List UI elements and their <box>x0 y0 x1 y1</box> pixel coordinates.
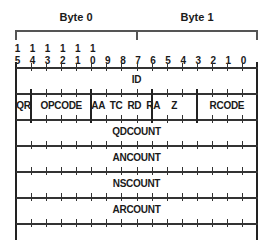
bit-tick <box>167 89 168 97</box>
field-opcode: OPCODE <box>31 100 91 112</box>
bit-tick <box>197 63 198 71</box>
bit-tick <box>227 167 228 175</box>
bit-tick <box>46 219 47 227</box>
bit-number-units: 4 <box>176 56 191 66</box>
bit-number-units: 1 <box>221 56 236 66</box>
field-arcount: ARCOUNT <box>16 204 257 216</box>
bit-tick <box>182 89 183 97</box>
bit-tick <box>46 63 47 71</box>
bit-tick <box>121 115 122 123</box>
bit-tick <box>182 193 183 201</box>
dns-header-diagram: Byte 0 Byte 1 1514131211109876543210 IDQ… <box>0 0 277 249</box>
bit-tick <box>61 89 62 97</box>
bit-tick <box>167 167 168 175</box>
bit-tick <box>121 89 122 97</box>
bit-tick <box>91 167 92 175</box>
bit-tick <box>91 219 92 227</box>
bit-tick <box>31 167 32 175</box>
bit-tick <box>137 219 138 227</box>
bit-tick <box>182 63 183 71</box>
bit-tick <box>76 89 77 97</box>
bit-tick <box>46 167 47 175</box>
bit-tick <box>227 141 228 149</box>
bit-tick <box>242 63 243 71</box>
byte-0-label: Byte 0 <box>16 11 136 23</box>
bit-tick <box>137 63 138 71</box>
bit-tick <box>212 141 213 149</box>
bit-tick <box>61 167 62 175</box>
bit-tick <box>76 219 77 227</box>
bit-tick <box>76 193 77 201</box>
bit-tick <box>242 167 243 175</box>
bit-number-units: 1 <box>70 56 85 66</box>
bit-number-tens: 1 <box>40 44 55 54</box>
bit-tick <box>31 141 32 149</box>
bit-number-units: 2 <box>55 56 70 66</box>
bit-tick <box>167 193 168 201</box>
bit-tick <box>121 63 122 71</box>
bit-tick <box>61 141 62 149</box>
bit-tick <box>227 219 228 227</box>
bit-number-units: 3 <box>40 56 55 66</box>
bit-number-units: 9 <box>100 56 115 66</box>
bit-tick <box>46 115 47 123</box>
bit-tick <box>91 141 92 149</box>
bit-tick <box>76 141 77 149</box>
bit-tick <box>152 219 153 227</box>
bit-tick <box>61 193 62 201</box>
bit-tick <box>91 193 92 201</box>
bit-tick <box>182 115 183 123</box>
bit-tick <box>31 63 32 71</box>
bit-tick <box>106 89 107 97</box>
bit-tick <box>182 219 183 227</box>
bit-tick <box>167 63 168 71</box>
bracket-center-tick <box>136 30 138 40</box>
field-nscount: NSCOUNT <box>16 178 257 190</box>
bracket-right-tick <box>256 30 258 40</box>
bit-tick <box>197 141 198 149</box>
bit-tick <box>227 193 228 201</box>
bit-number-units: 8 <box>115 56 130 66</box>
bit-tick <box>242 89 243 97</box>
bit-tick <box>106 63 107 71</box>
field-ancount: ANCOUNT <box>16 152 257 164</box>
bit-tick <box>242 219 243 227</box>
bit-tick <box>227 89 228 97</box>
bit-number-units: 3 <box>191 56 206 66</box>
bit-tick <box>242 115 243 123</box>
bit-tick <box>212 219 213 227</box>
byte-1-label: Byte 1 <box>137 11 257 23</box>
bit-tick <box>46 89 47 97</box>
bit-tick <box>152 141 153 149</box>
bit-tick <box>137 167 138 175</box>
bit-tick <box>31 219 32 227</box>
bit-tick <box>106 219 107 227</box>
bit-tick <box>227 115 228 123</box>
bit-number-units: 7 <box>131 56 146 66</box>
bit-tick <box>212 115 213 123</box>
bit-tick <box>61 219 62 227</box>
bit-tick <box>46 193 47 201</box>
bit-tick <box>137 141 138 149</box>
bit-tick <box>182 141 183 149</box>
bit-number-units: 6 <box>146 56 161 66</box>
bit-tick <box>137 193 138 201</box>
field-aa-tc-rd-ra: AA TC RD RA <box>91 100 151 112</box>
bit-tick <box>152 63 153 71</box>
bit-tick <box>197 193 198 201</box>
bit-tick <box>121 193 122 201</box>
bit-tick <box>197 219 198 227</box>
field-rcode: RCODE <box>197 100 257 112</box>
bit-tick <box>31 193 32 201</box>
bit-tick <box>167 219 168 227</box>
bit-tick <box>61 63 62 71</box>
bit-tick <box>242 141 243 149</box>
bit-tick <box>121 141 122 149</box>
bit-tick <box>212 63 213 71</box>
bit-number-units: 4 <box>25 56 40 66</box>
bracket-left-tick <box>15 30 17 40</box>
bit-tick <box>46 141 47 149</box>
bit-tick <box>227 63 228 71</box>
bit-tick <box>212 89 213 97</box>
bit-tick <box>76 167 77 175</box>
